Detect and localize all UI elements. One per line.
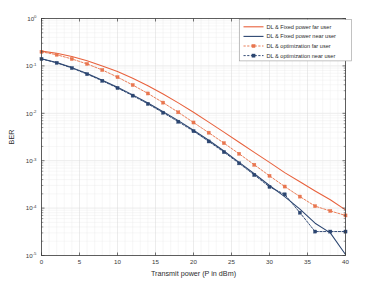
y-tick-label: 10-3 xyxy=(26,157,37,164)
x-tick-label: 40 xyxy=(342,258,349,265)
series-marker xyxy=(283,193,286,196)
legend-label: DL & optimization far user xyxy=(267,43,331,49)
series-marker xyxy=(222,151,225,154)
series-marker xyxy=(131,83,134,86)
chart-legend: DL & Fixed power far userDL & Fixed powe… xyxy=(240,20,352,61)
series-marker xyxy=(222,142,225,145)
chart-figure: 051015202530354010010-110-210-310-410-5 … xyxy=(0,0,368,290)
series-marker xyxy=(101,68,104,71)
series-marker xyxy=(177,111,180,114)
x-tick-label: 35 xyxy=(304,258,311,265)
ber-semilog-plot: 051015202530354010010-110-210-310-410-5 … xyxy=(0,0,368,290)
series-marker xyxy=(207,131,210,134)
series-marker xyxy=(253,173,256,176)
y-axis-title: BER xyxy=(7,130,16,145)
series-marker xyxy=(146,102,149,105)
series-marker xyxy=(329,209,332,212)
series-marker xyxy=(298,211,301,214)
y-tick-label: 100 xyxy=(27,14,37,21)
series-marker xyxy=(238,152,241,155)
legend-label: DL & Fixed power far user xyxy=(267,24,332,30)
series-marker xyxy=(192,121,195,124)
series-marker xyxy=(101,79,104,82)
series-marker xyxy=(162,101,165,104)
series-marker xyxy=(314,230,317,233)
series-marker xyxy=(55,61,58,64)
legend-marker-sample xyxy=(252,54,255,57)
y-tick-label: 10-4 xyxy=(26,204,37,211)
series-marker xyxy=(116,86,119,89)
series-marker xyxy=(283,185,286,188)
legend-label: DL & optimization near user xyxy=(267,53,336,59)
series-marker xyxy=(86,73,89,76)
x-tick-label: 15 xyxy=(152,258,159,265)
series-marker xyxy=(146,92,149,95)
series-marker xyxy=(177,120,180,123)
series-marker xyxy=(298,195,301,198)
series-marker xyxy=(329,230,332,233)
series-marker xyxy=(86,62,89,65)
series-marker xyxy=(70,57,73,60)
series-marker xyxy=(253,163,256,166)
series-marker xyxy=(70,67,73,70)
series-marker xyxy=(207,140,210,143)
legend-marker-sample xyxy=(252,44,255,47)
series-marker xyxy=(192,130,195,133)
x-tick-label: 5 xyxy=(78,258,82,265)
y-tick-label: 10-1 xyxy=(26,62,37,69)
series-marker xyxy=(268,185,271,188)
series-marker xyxy=(116,76,119,79)
x-tick-label: 10 xyxy=(114,258,121,265)
series-marker xyxy=(131,94,134,97)
series-marker xyxy=(238,162,241,165)
series-marker xyxy=(55,53,58,56)
x-tick-label: 20 xyxy=(190,258,197,265)
series-marker xyxy=(268,174,271,177)
series-marker xyxy=(162,111,165,114)
x-tick-label: 30 xyxy=(266,258,273,265)
y-tick-label: 10-2 xyxy=(26,109,37,116)
x-axis-title: Transmit power (P in dBm) xyxy=(151,269,236,278)
y-tick-label: 10-5 xyxy=(26,251,37,258)
x-tick-label: 25 xyxy=(228,258,235,265)
legend-label: DL & Fixed power near user xyxy=(267,33,337,39)
series-marker xyxy=(314,205,317,208)
x-tick-label: 0 xyxy=(40,258,44,265)
